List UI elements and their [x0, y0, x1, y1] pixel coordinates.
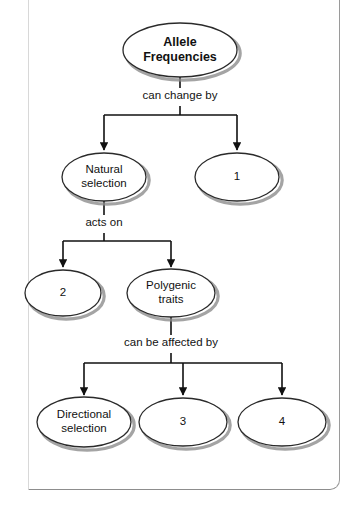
node-ellipse-natural-selection: [62, 153, 146, 201]
node-ellipse-blank-1: [195, 153, 279, 201]
node-ellipse-blank-2: [25, 270, 101, 316]
node-layer: [25, 23, 329, 450]
node-ellipse-polygenic-traits: [127, 269, 215, 317]
diagram-canvas: [0, 0, 351, 508]
node-ellipse-directional-selection: [37, 397, 131, 447]
connector-layer: [63, 77, 282, 395]
node-ellipse-blank-3: [139, 398, 227, 446]
node-ellipse-allele-frequencies: [123, 23, 237, 77]
node-ellipse-blank-4: [238, 398, 326, 446]
diagram-page: Allele FrequenciesNatural selection12Pol…: [0, 0, 351, 508]
